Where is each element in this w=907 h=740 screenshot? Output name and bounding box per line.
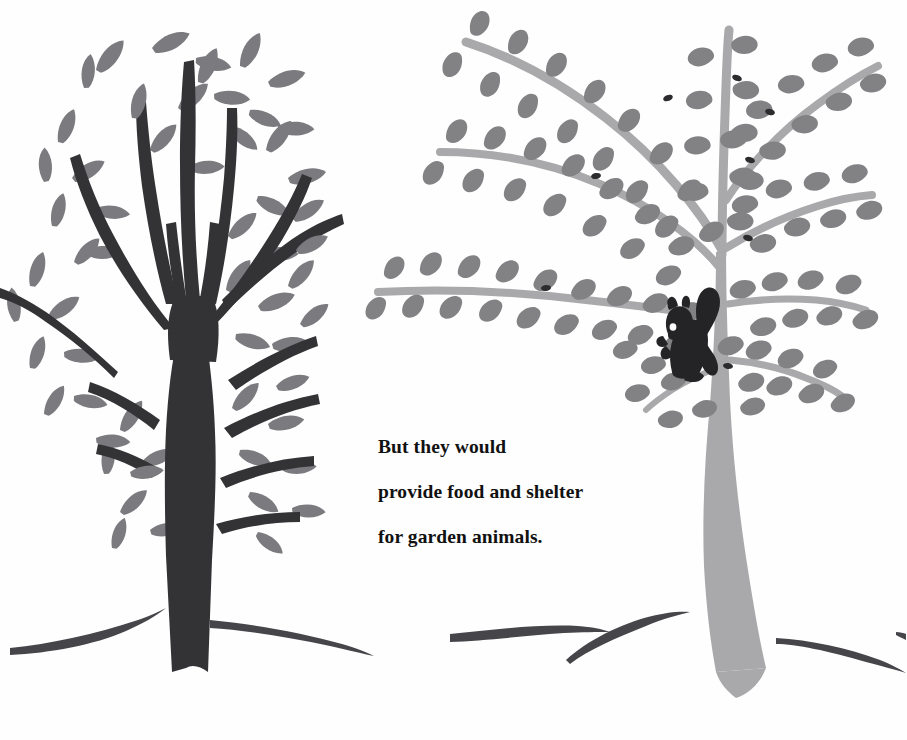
- caption-text: But they would provide food and shelter …: [378, 424, 678, 559]
- caption-line-1: But they would: [378, 424, 678, 469]
- caption-line-3: for garden animals.: [378, 514, 678, 559]
- illustration-canvas: [0, 0, 907, 740]
- caption-line-2: provide food and shelter: [378, 469, 678, 514]
- squirrel-eye: [670, 323, 677, 331]
- illustration-page: But they would provide food and shelter …: [0, 0, 907, 740]
